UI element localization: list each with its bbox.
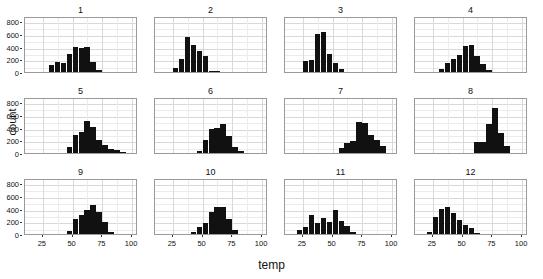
- y-tick-label: 400: [6, 125, 19, 132]
- facet-panel-6: 6: [154, 85, 267, 166]
- y-tick-mark: [20, 73, 22, 74]
- histogram-bar: [214, 207, 219, 234]
- histogram-bar: [374, 140, 379, 153]
- y-tick-mark: [20, 35, 22, 36]
- x-axis-ticks: 255075100: [154, 235, 267, 249]
- histogram-bar: [433, 217, 438, 234]
- histogram-bar: [474, 142, 479, 153]
- y-tick-mark: [20, 116, 22, 117]
- facet-title: 4: [414, 4, 527, 17]
- histogram-bar: [309, 215, 314, 234]
- x-tick-label: 75: [227, 239, 235, 248]
- histogram-bar: [67, 147, 72, 153]
- y-tick-label: 800: [6, 19, 19, 26]
- plot-panel: [24, 17, 137, 73]
- y-tick-mark: [20, 60, 22, 61]
- histogram-bar: [79, 48, 84, 73]
- x-tick-mark: [361, 235, 362, 237]
- histogram-bar: [84, 121, 89, 153]
- histogram-bar: [309, 60, 314, 72]
- x-tick-label: 100: [255, 239, 268, 248]
- histogram-bar: [90, 205, 95, 234]
- x-tick-label: 25: [168, 239, 176, 248]
- y-axis-ticks: 0200400600800: [0, 179, 22, 235]
- histogram-bar: [315, 34, 320, 72]
- histogram-bar: [498, 133, 503, 153]
- x-tick-label: 25: [38, 239, 46, 248]
- x-tick-label: 100: [125, 239, 138, 248]
- facet-title: 6: [154, 85, 267, 98]
- histogram-bar: [203, 140, 208, 153]
- histogram-bar: [457, 55, 462, 72]
- histogram-bar: [469, 228, 474, 234]
- y-tick-label: 200: [6, 57, 19, 64]
- histogram-bar: [67, 54, 72, 72]
- facet-title: 8: [414, 85, 527, 98]
- histogram-bar: [427, 232, 432, 234]
- x-tick-mark: [432, 235, 433, 237]
- histogram-bar: [445, 63, 450, 72]
- histogram-bar: [102, 222, 107, 234]
- y-tick-label: 400: [6, 206, 19, 213]
- y-tick-label: 200: [6, 138, 19, 145]
- histogram-bar: [185, 37, 190, 72]
- histogram-bar: [344, 226, 349, 234]
- histogram-bar: [173, 68, 178, 72]
- y-tick-mark: [20, 48, 22, 49]
- facet-title: 9: [24, 166, 137, 179]
- histogram-bar: [486, 124, 491, 153]
- x-tick-label: 50: [327, 239, 335, 248]
- plot-panel: [414, 98, 527, 154]
- x-tick-label: 50: [197, 239, 205, 248]
- histogram-bars: [155, 99, 266, 153]
- histogram-bar: [368, 135, 373, 153]
- histogram-bars: [285, 18, 396, 72]
- y-tick-mark: [20, 129, 22, 130]
- y-tick-label: 200: [6, 219, 19, 226]
- histogram-bar: [504, 146, 509, 153]
- histogram-bar: [226, 219, 231, 234]
- plot-panel: [24, 98, 137, 154]
- histogram-bar: [232, 230, 237, 234]
- histogram-bars: [285, 180, 396, 234]
- x-tick-mark: [332, 235, 333, 237]
- facet-grid: 1020040060080023450200400600800678902004…: [24, 4, 543, 254]
- histogram-bar: [362, 123, 367, 153]
- x-axis-ticks: 255075100: [284, 235, 397, 249]
- histogram-bar: [463, 46, 468, 72]
- histogram-bar: [321, 218, 326, 234]
- histogram-bar: [90, 127, 95, 153]
- histogram-bar: [73, 219, 78, 234]
- histogram-bar: [114, 150, 119, 153]
- facet-histogram-chart: count temp 10200400600800234502004006008…: [0, 0, 543, 279]
- histogram-bar: [191, 45, 196, 72]
- x-tick-label: 50: [457, 239, 465, 248]
- facet-panel-2: 2: [154, 4, 267, 85]
- histogram-bar: [339, 221, 344, 234]
- x-axis-ticks: 255075100: [414, 235, 527, 249]
- x-tick-label: 75: [97, 239, 105, 248]
- histogram-bar: [67, 231, 72, 235]
- histogram-bar: [220, 207, 225, 234]
- histogram-bar: [333, 210, 338, 234]
- histogram-bar: [120, 152, 125, 153]
- facet-title: 7: [284, 85, 397, 98]
- facet-title: 5: [24, 85, 137, 98]
- histogram-bar: [108, 232, 113, 234]
- histogram-bar: [356, 122, 361, 153]
- facet-title: 12: [414, 166, 527, 179]
- histogram-bar: [209, 129, 214, 153]
- histogram-bar: [315, 223, 320, 234]
- histogram-bar: [191, 232, 196, 234]
- histogram-bars: [25, 180, 136, 234]
- y-tick-mark: [20, 210, 22, 211]
- facet-panel-5: 50200400600800: [24, 85, 137, 166]
- histogram-bars: [155, 180, 266, 234]
- histogram-bar: [209, 212, 214, 234]
- histogram-bar: [214, 128, 219, 153]
- histogram-bar: [197, 227, 202, 234]
- facet-title: 2: [154, 4, 267, 17]
- histogram-bar: [203, 56, 208, 72]
- histogram-bar: [49, 65, 54, 72]
- histogram-bar: [469, 45, 474, 72]
